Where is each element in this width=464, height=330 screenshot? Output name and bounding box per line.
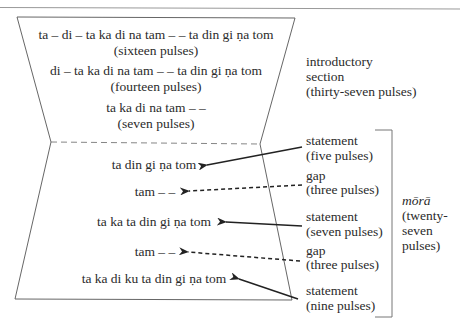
label-1-type: statement xyxy=(306,134,358,149)
label-4-pulses: (three pulses) xyxy=(306,258,379,273)
label-3-pulses: (seven pulses) xyxy=(306,225,383,240)
mora-line-3: ta ka ta din gi ṇa tom xyxy=(97,214,211,229)
top-rule xyxy=(0,8,460,10)
mora-line-1: ta din gi ṇa tom xyxy=(112,157,197,172)
arrow-gap-three-1 xyxy=(189,185,302,191)
label-5-type: statement xyxy=(306,284,358,299)
label-1-pulses: (five pulses) xyxy=(306,149,373,164)
label-2-pulses: (three pulses) xyxy=(306,183,379,198)
label-5-pulses: (nine pulses) xyxy=(306,299,375,314)
section-divider xyxy=(51,142,260,144)
diagram-graphics xyxy=(0,0,464,330)
mora-label-line-3: pulses) xyxy=(402,239,440,254)
arrow-statement-five xyxy=(207,147,302,165)
intro-label-line-3: (thirty-seven pulses) xyxy=(306,85,417,100)
intro-line-3-syllables: ta ka di na tam – – xyxy=(106,100,206,115)
intro-label-line-2: section xyxy=(306,70,344,85)
mora-line-4: tam – – xyxy=(135,244,176,259)
mora-structure-diagram: ta – di – ta ka di na tam – – ta din gi … xyxy=(0,0,464,330)
intro-line-1-syllables: ta – di – ta ka di na tam – – ta din gi … xyxy=(38,27,273,42)
intro-label-line-1: introductory xyxy=(306,55,373,70)
mora-label-line-1: (twenty- xyxy=(402,209,448,224)
intro-line-3-pulses: (seven pulses) xyxy=(118,116,195,131)
arrow-statement-nine xyxy=(239,279,298,299)
mora-line-5: ta ka di ku ta din gi ṇa tom xyxy=(82,271,227,286)
mora-label-line-2: seven xyxy=(402,224,433,239)
arrow-statement-seven xyxy=(226,222,302,226)
intro-line-2-syllables: di – ta ka di na tam – – ta din gi ṇa to… xyxy=(50,63,262,78)
label-3-type: statement xyxy=(306,210,358,225)
intro-line-2-pulses: (fourteen pulses) xyxy=(110,79,201,94)
mora-label-title: mōrā xyxy=(402,194,431,209)
mora-line-2: tam – – xyxy=(135,184,176,199)
intro-line-1-pulses: (sixteen pulses) xyxy=(114,43,198,58)
